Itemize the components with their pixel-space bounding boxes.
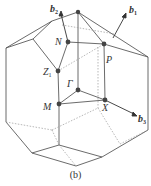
vector-b1-label: b1 (129, 5, 137, 16)
brillouin-zone-diagram (0, 0, 151, 186)
point-N-label: N (55, 37, 62, 47)
vector-b2-label: b2 (50, 4, 58, 15)
point-P (102, 42, 107, 47)
point-Gamma (76, 88, 81, 93)
point-Gamma-label: Γ (67, 79, 73, 89)
point-Z1 (56, 69, 61, 74)
figure-caption: (b) (0, 169, 151, 180)
hidden-edges (6, 25, 148, 166)
point-X-label: X (102, 103, 108, 113)
point-M-label: M (43, 102, 51, 112)
point-P-label: P (106, 55, 112, 65)
point-Z1-label: Z1 (43, 67, 52, 78)
brillouin-zone-figure: b2 b1 b3 N P Z1 Γ M X (b) (0, 0, 151, 186)
point-M (57, 102, 62, 107)
vector-b3-label: b3 (138, 114, 146, 125)
point-N (66, 40, 71, 45)
